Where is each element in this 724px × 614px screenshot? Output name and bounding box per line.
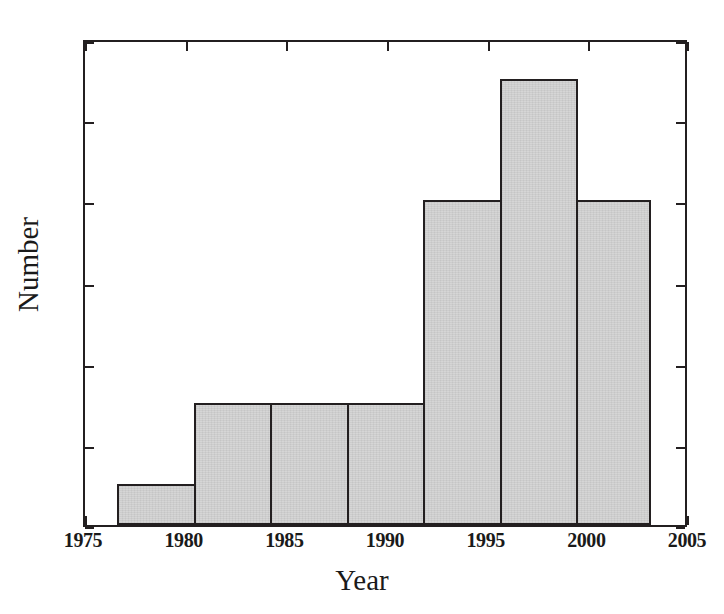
x-axis-tick-label: 1980: [164, 530, 202, 550]
histogram-bar: [194, 403, 273, 525]
histogram-bar: [270, 403, 349, 525]
x-axis-title: Year: [0, 566, 724, 595]
y-axis-tick: [676, 203, 685, 205]
y-axis-title: Number: [14, 145, 43, 385]
bars-layer: [85, 42, 685, 525]
y-axis-tick: [85, 203, 94, 205]
y-axis-tick: [676, 366, 685, 368]
x-axis-tick: [387, 42, 389, 51]
y-axis-tick: [85, 42, 94, 44]
y-axis-tick: [676, 122, 685, 124]
x-axis-tick-label: 2000: [567, 530, 605, 550]
x-axis-tick-label: 1990: [366, 530, 404, 550]
x-axis-tick-label: 2005: [668, 530, 706, 550]
y-axis-tick: [85, 447, 94, 449]
x-axis-tick: [488, 42, 490, 51]
x-axis-tick: [85, 516, 87, 525]
x-axis-tick: [286, 42, 288, 51]
x-axis-tick: [588, 42, 590, 51]
x-axis-tick: [687, 516, 689, 525]
histogram-bar: [576, 200, 650, 525]
histogram-bar: [117, 484, 196, 525]
x-axis-tick-label: 1985: [265, 530, 303, 550]
y-axis-tick: [676, 42, 685, 44]
histogram-bar: [347, 403, 426, 525]
y-axis-tick: [85, 366, 94, 368]
y-axis-tick: [676, 285, 685, 287]
plot-area: [83, 40, 687, 527]
x-axis-tick-label: 1995: [466, 530, 504, 550]
x-axis-tick-label: 1975: [64, 530, 102, 550]
y-axis-tick: [85, 285, 94, 287]
histogram-figure: 1975198019851990199520002005 024681012 Y…: [0, 0, 724, 614]
histogram-bar: [423, 200, 502, 525]
y-axis-tick: [676, 447, 685, 449]
x-axis-tick: [186, 42, 188, 51]
x-axis-tick: [687, 42, 689, 51]
y-axis-tick: [85, 122, 94, 124]
histogram-bar: [500, 79, 579, 525]
